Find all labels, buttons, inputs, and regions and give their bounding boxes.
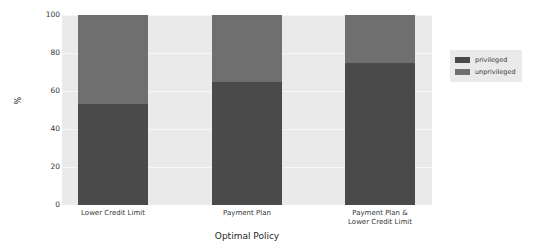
- bar-segment-privileged[interactable]: [78, 104, 148, 205]
- y-tick-80: 80: [32, 49, 60, 57]
- legend-label-privileged: privileged: [475, 56, 507, 64]
- y-tick-40: 40: [32, 125, 60, 133]
- bar-segment-unprivileged[interactable]: [212, 15, 282, 82]
- legend-item-privileged[interactable]: privileged: [455, 55, 516, 65]
- x-tick-line-1: Payment Plan &: [320, 209, 440, 218]
- legend-swatch-privileged: [455, 57, 470, 63]
- x-tick-line-2: Lower Credit Limit: [320, 218, 440, 227]
- bar-segment-privileged[interactable]: [345, 63, 415, 206]
- x-tick-payment-plan: Payment Plan: [187, 209, 307, 218]
- bar-segment-privileged[interactable]: [212, 82, 282, 206]
- x-tick-line-1: Lower Credit Limit: [53, 209, 173, 218]
- plot-area: [62, 15, 432, 205]
- bar-segment-unprivileged[interactable]: [345, 15, 415, 63]
- y-tick-100: 100: [32, 11, 60, 19]
- x-axis-label: Optimal Policy: [62, 231, 432, 241]
- x-tick-lower-credit-limit: Lower Credit Limit: [53, 209, 173, 218]
- legend: privileged unprivileged: [450, 50, 522, 82]
- x-tick-payment-plan-and-lower-credit-limit: Payment Plan & Lower Credit Limit: [320, 209, 440, 227]
- bar-segment-unprivileged[interactable]: [78, 15, 148, 104]
- y-tick-0: 0: [32, 201, 60, 209]
- bar-chart-figure: % 100 80 60 40 20 0 Lower Credit Limit P…: [0, 0, 538, 249]
- x-tick-line-1: Payment Plan: [187, 209, 307, 218]
- legend-item-unprivileged[interactable]: unprivileged: [455, 67, 516, 77]
- legend-swatch-unprivileged: [455, 69, 470, 75]
- y-tick-60: 60: [32, 87, 60, 95]
- legend-label-unprivileged: unprivileged: [475, 68, 516, 76]
- y-tick-20: 20: [32, 163, 60, 171]
